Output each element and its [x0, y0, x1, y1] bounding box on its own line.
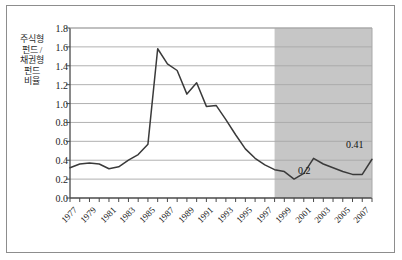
- plot-area: [0, 0, 402, 260]
- chart-figure: 주식형 펀드 / 채권형 펀드 비율 0.00.20.40.60.81.01.2…: [0, 0, 402, 260]
- data-point-label: 0.2: [298, 165, 311, 176]
- data-point-label: 0.41: [346, 139, 364, 150]
- forecast-shaded-region: [275, 28, 372, 198]
